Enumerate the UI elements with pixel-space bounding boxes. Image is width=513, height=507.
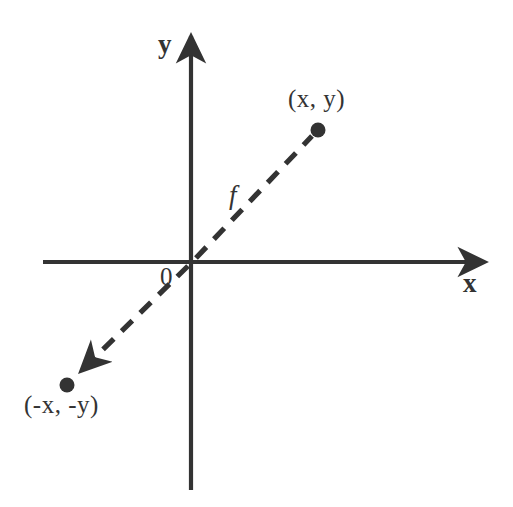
function-ray-upper [196,136,312,258]
figure-canvas: y x 0 f (x, y) (-x, -y) [0,0,513,507]
point-marker-positive [311,123,326,138]
function-label: f [229,182,237,209]
point-label-negative: (-x, -y) [24,392,99,417]
y-axis-label: y [158,31,172,58]
x-axis-label: x [463,270,477,297]
origin-label: 0 [160,264,173,289]
coordinate-diagram [0,0,513,507]
point-label-positive: (x, y) [288,86,345,111]
